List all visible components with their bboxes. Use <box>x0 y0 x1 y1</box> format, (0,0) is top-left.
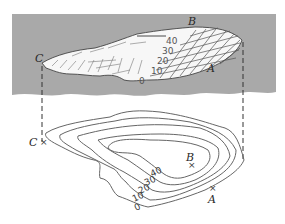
map-point-c: C <box>29 136 38 149</box>
map-point-b: B <box>185 151 194 164</box>
map-marker-c: × <box>40 137 48 147</box>
relief-point-b: B <box>187 15 196 28</box>
map-point-a: A <box>207 193 216 206</box>
contour-label-0: 0 <box>133 201 143 213</box>
relief-label-20: 20 <box>157 56 169 66</box>
relief-label-30: 30 <box>162 46 174 56</box>
relief-label-0: 0 <box>139 76 145 86</box>
map-marker-a: × <box>209 183 217 193</box>
relief-label-10: 10 <box>151 66 163 76</box>
relief-point-c: C <box>35 52 44 65</box>
topographic-diagram: 40 30 20 10 0 B A C 40 30 20 10 0 × C × … <box>0 0 285 224</box>
relief-point-a: A <box>206 62 215 75</box>
relief-label-40: 40 <box>166 36 178 46</box>
